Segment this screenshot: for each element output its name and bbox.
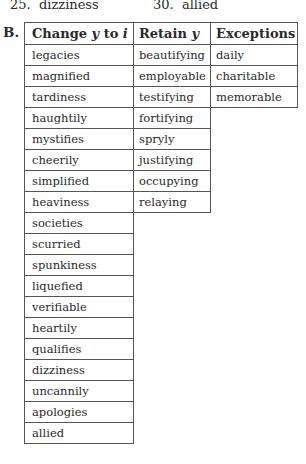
cell-change-y-to-i: qualifies [25, 339, 134, 360]
cell-change-y-to-i: apologies [25, 402, 134, 423]
table-row: heartily [25, 318, 298, 339]
cell-change-y-to-i: scurried [25, 234, 134, 255]
cell-change-y-to-i: allied [25, 423, 134, 444]
table-row: magnifiedemployablecharitable [25, 66, 298, 87]
empty-cell [211, 423, 298, 444]
empty-cell [211, 402, 298, 423]
cell-retain-y: relaying [134, 192, 211, 213]
cell-change-y-to-i: haughtily [25, 108, 134, 129]
table-row: heavinessrelaying [25, 192, 298, 213]
cell-change-y-to-i: simplified [25, 171, 134, 192]
empty-cell [211, 381, 298, 402]
cell-retain-y: employable [134, 66, 211, 87]
table-row: cheerilyjustifying [25, 150, 298, 171]
empty-cell [211, 213, 298, 234]
empty-cell [211, 339, 298, 360]
cell-change-y-to-i: cheerily [25, 150, 134, 171]
cell-change-y-to-i: dizziness [25, 360, 134, 381]
cell-retain-y: fortifying [134, 108, 211, 129]
empty-cell [134, 255, 211, 276]
cell-retain-y: testifying [134, 87, 211, 108]
empty-cell [134, 423, 211, 444]
empty-cell [211, 150, 298, 171]
cell-change-y-to-i: liquefied [25, 276, 134, 297]
table-row: haughtilyfortifying [25, 108, 298, 129]
cell-retain-y: occupying [134, 171, 211, 192]
previous-answers-line: 25. dizziness 30. allied [0, 0, 306, 17]
header-change-y-to-i: Change y to i [25, 23, 134, 45]
empty-cell [211, 192, 298, 213]
cell-change-y-to-i: tardiness [25, 87, 134, 108]
empty-cell [211, 360, 298, 381]
empty-cell [134, 381, 211, 402]
empty-cell [211, 255, 298, 276]
empty-cell [211, 129, 298, 150]
section-label: B. [3, 24, 19, 40]
table-row: dizziness [25, 360, 298, 381]
cell-change-y-to-i: mystifies [25, 129, 134, 150]
cell-retain-y: justifying [134, 150, 211, 171]
answer-25: 25. dizziness [10, 0, 99, 12]
cell-exceptions: memorable [211, 87, 298, 108]
table-row: mystifiesspryly [25, 129, 298, 150]
cell-change-y-to-i: verifiable [25, 297, 134, 318]
cell-change-y-to-i: spunkiness [25, 255, 134, 276]
cell-change-y-to-i: magnified [25, 66, 134, 87]
empty-cell [134, 402, 211, 423]
cell-change-y-to-i: societies [25, 213, 134, 234]
empty-cell [134, 339, 211, 360]
table-row: verifiable [25, 297, 298, 318]
table-row: spunkiness [25, 255, 298, 276]
cell-exceptions: charitable [211, 66, 298, 87]
empty-cell [134, 276, 211, 297]
table-row: qualifies [25, 339, 298, 360]
cell-change-y-to-i: legacies [25, 45, 134, 66]
empty-cell [134, 360, 211, 381]
table-row: legaciesbeautifyingdaily [25, 45, 298, 66]
empty-cell [134, 318, 211, 339]
empty-cell [211, 234, 298, 255]
empty-cell [211, 108, 298, 129]
table-row: societies [25, 213, 298, 234]
empty-cell [134, 234, 211, 255]
header-exceptions: Exceptions [211, 23, 298, 45]
empty-cell [134, 213, 211, 234]
empty-cell [211, 276, 298, 297]
table-row: apologies [25, 402, 298, 423]
table-row: tardinesstestifyingmemorable [25, 87, 298, 108]
cell-change-y-to-i: heaviness [25, 192, 134, 213]
table-row: allied [25, 423, 298, 444]
cell-change-y-to-i: heartily [25, 318, 134, 339]
cell-change-y-to-i: uncannily [25, 381, 134, 402]
table-row: simplifiedoccupying [25, 171, 298, 192]
empty-cell [211, 171, 298, 192]
empty-cell [134, 297, 211, 318]
table-row: liquefied [25, 276, 298, 297]
table-row: uncannily [25, 381, 298, 402]
table-row: scurried [25, 234, 298, 255]
header-row: Change y to i Retain y Exceptions [25, 23, 298, 45]
answer-30: 30. allied [153, 0, 218, 12]
spelling-classification-table: Change y to i Retain y Exceptions legaci… [24, 22, 298, 444]
header-retain-y: Retain y [134, 23, 211, 45]
cell-retain-y: spryly [134, 129, 211, 150]
cell-retain-y: beautifying [134, 45, 211, 66]
empty-cell [211, 297, 298, 318]
empty-cell [211, 318, 298, 339]
cell-exceptions: daily [211, 45, 298, 66]
